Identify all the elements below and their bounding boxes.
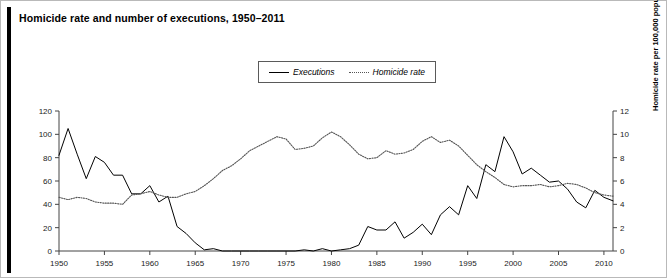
x-tick-label: 1965 <box>186 259 204 268</box>
x-tick-label: 1990 <box>413 259 431 268</box>
y-tick-label-left: 40 <box>43 200 52 209</box>
y-tick-label-right: 2 <box>620 224 625 233</box>
x-tick-label: 1955 <box>96 259 114 268</box>
series-layer <box>59 129 613 252</box>
y-tick-label-right: 10 <box>620 130 629 139</box>
x-tick-label: 1960 <box>141 259 159 268</box>
y-tick-label-right: 0 <box>620 247 625 256</box>
x-tick-label: 1975 <box>277 259 295 268</box>
y-tick-label-left: 120 <box>39 107 53 116</box>
x-tick-label: 1995 <box>459 259 477 268</box>
y-tick-label-left: 100 <box>39 130 53 139</box>
y-tick-label-left: 80 <box>43 154 52 163</box>
y-tick-label-left: 0 <box>48 247 53 256</box>
y-axis-right-title: Homicide rate per 100,000 population <box>651 0 660 111</box>
y-tick-label-right: 12 <box>620 107 629 116</box>
x-tick-label: 1980 <box>323 259 341 268</box>
plot-area: 0204060801001200246810121950195519601965… <box>1 1 667 278</box>
x-tick-label: 2010 <box>595 259 613 268</box>
y-tick-label-right: 8 <box>620 154 625 163</box>
series-line-homicide-rate <box>59 132 613 204</box>
x-tick-label: 2005 <box>550 259 568 268</box>
axis-layer: 0204060801001200246810121950195519601965… <box>39 107 630 268</box>
x-tick-label: 2000 <box>504 259 522 268</box>
chart-figure: Homicide rate and number of executions, … <box>0 0 667 278</box>
y-tick-label-left: 20 <box>43 224 52 233</box>
y-tick-label-left: 60 <box>43 177 52 186</box>
series-line-executions <box>59 129 613 252</box>
y-tick-label-right: 4 <box>620 200 625 209</box>
x-tick-label: 1985 <box>368 259 386 268</box>
y-tick-label-right: 6 <box>620 177 625 186</box>
x-tick-label: 1950 <box>50 259 68 268</box>
x-tick-label: 1970 <box>232 259 250 268</box>
plot-svg: 0204060801001200246810121950195519601965… <box>1 1 667 278</box>
